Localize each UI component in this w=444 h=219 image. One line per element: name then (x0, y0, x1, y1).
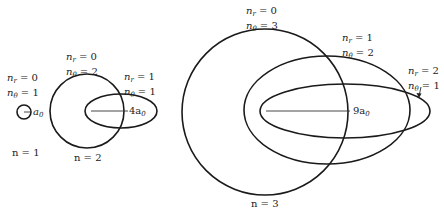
label-n3-ellipse1-quantum-numbers: nr = 1 nθ = 2 (342, 32, 374, 62)
radius-subscript: 0 (365, 110, 369, 118)
value-ntheta: 1 (433, 80, 439, 91)
label-n3-radius: 9a0 (353, 105, 370, 120)
orbit-diagram (0, 0, 444, 219)
equals: = (135, 86, 150, 97)
value-ntheta: 1 (149, 86, 155, 97)
equals: = (256, 5, 271, 16)
value-nr: 0 (91, 51, 97, 62)
value-nr: 0 (32, 72, 38, 83)
label-n3-circle-quantum-numbers: nr = 0 nθ = 3 (246, 5, 278, 35)
orbit-n3-ellipse-ntheta2 (244, 56, 410, 164)
value-ntheta: 1 (32, 87, 38, 98)
equals: = (76, 51, 91, 62)
equals: = (419, 80, 434, 91)
value-nr: 2 (433, 65, 439, 76)
value-nr: 1 (367, 32, 373, 43)
equals: = (352, 32, 367, 43)
equals: = (17, 72, 32, 83)
label-n2: n = 2 (74, 152, 102, 163)
label-n3: n = 3 (251, 198, 279, 209)
label-n3-ellipse2-quantum-numbers: nr = 2 nθ = 1 (408, 65, 440, 95)
equals: = (353, 47, 368, 58)
value-nr: 0 (271, 5, 277, 16)
equals: = (134, 71, 149, 82)
equals: = (418, 65, 433, 76)
principal-n-label: n = 2 (74, 152, 102, 163)
value-nr: 1 (149, 71, 155, 82)
radius-symbol: 9a (353, 105, 365, 116)
radius-subscript: 0 (39, 111, 43, 119)
equals: = (77, 66, 92, 77)
value-ntheta: 2 (91, 66, 97, 77)
label-n2-ellipse-quantum-numbers: nr = 1 nθ = 1 (124, 71, 156, 101)
equals: = (257, 20, 272, 31)
value-ntheta: 3 (271, 20, 277, 31)
radius-symbol: 4a (129, 105, 141, 116)
value-ntheta: 2 (367, 47, 373, 58)
principal-n-label: n = 1 (12, 147, 40, 158)
equals: = (18, 87, 33, 98)
principal-n-label: n = 3 (251, 198, 279, 209)
label-n2-radius: 4a0 (129, 105, 146, 120)
label-n1: n = 1 (12, 147, 40, 158)
radius-subscript: 0 (141, 110, 145, 118)
label-n2-circle-quantum-numbers: nr = 0 nθ = 2 (66, 51, 98, 81)
label-n1-radius: a0 (33, 106, 43, 121)
label-n1-quantum-numbers: nr = 0 nθ = 1 (7, 72, 39, 102)
orbit-n3-circle (182, 29, 348, 195)
